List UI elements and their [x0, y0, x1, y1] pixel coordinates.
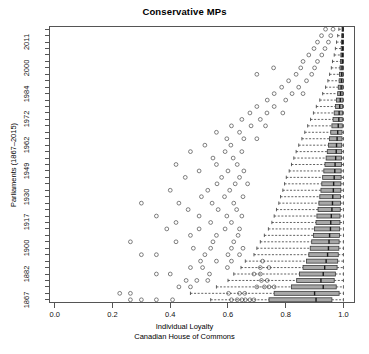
x-tick-label: 0.4 — [150, 310, 190, 319]
x-axis-title: Individual Loyalty Canadian House of Com… — [0, 322, 369, 342]
x-tick-label: 0.8 — [266, 310, 306, 319]
y-tick-label: 1882 — [22, 266, 31, 283]
x-axis-title-sub: Canadian House of Commons — [0, 332, 369, 342]
y-tick-label: 1917 — [22, 214, 31, 231]
x-tick-label: 0.2 — [93, 310, 133, 319]
x-tick-label: 0.6 — [208, 310, 248, 319]
x-tick-label: 0.0 — [35, 310, 75, 319]
y-tick-label: 1930 — [22, 188, 31, 205]
x-tick-mark — [112, 303, 113, 308]
y-tick-label: 1984 — [22, 85, 31, 102]
y-tick-label: 1949 — [22, 163, 31, 180]
y-tick-label: 1972 — [22, 111, 31, 128]
x-tick-mark — [285, 303, 286, 308]
y-axis-title: Parliaments (1867–2015) — [9, 122, 18, 206]
x-tick-mark — [54, 303, 55, 308]
x-tick-label: 1.0 — [323, 310, 363, 319]
x-axis-title-main: Individual Loyalty — [0, 322, 369, 332]
y-tick-label: 2000 — [22, 60, 31, 77]
y-tick-label: 1867 — [22, 291, 31, 308]
chart-root: Conservative MPs Parliaments (1867–2015)… — [0, 0, 369, 354]
chart-title: Conservative MPs — [0, 6, 369, 17]
y-tick-label: 1900 — [22, 240, 31, 257]
y-tick-label: 2011 — [22, 34, 31, 50]
x-tick-mark — [343, 303, 344, 308]
y-tick-label: 1962 — [22, 137, 31, 154]
plot-frame — [49, 26, 355, 303]
x-tick-mark — [227, 303, 228, 308]
x-tick-mark — [170, 303, 171, 308]
